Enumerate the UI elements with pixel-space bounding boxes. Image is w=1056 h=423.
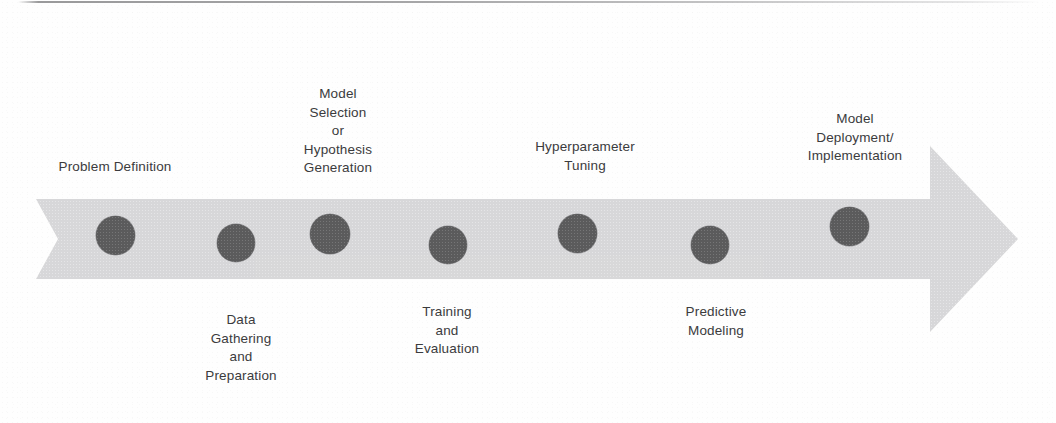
step-label-line: and — [415, 322, 480, 341]
step-label-model-selection-or-hypothesis-generation: ModelSelectionorHypothesisGeneration — [304, 85, 372, 178]
step-label-line: or — [304, 122, 372, 141]
milestone-dot-predictive-modeling — [691, 226, 729, 264]
step-label-line: Model — [808, 110, 902, 129]
step-label-line: Model — [304, 85, 372, 104]
step-label-model-deployment-implementation: ModelDeployment/Implementation — [808, 110, 902, 166]
process-arrow — [0, 0, 1056, 423]
step-label-line: Deployment/ — [808, 129, 902, 148]
milestone-dot-data-gathering-and-preparation — [217, 224, 255, 262]
milestone-dot-model-selection-or-hypothesis-generation — [310, 214, 350, 254]
step-label-problem-definition: Problem Definition — [58, 158, 171, 177]
step-label-line: Training — [415, 303, 480, 322]
step-label-line: Tuning — [535, 157, 635, 176]
arrow-shape-icon — [36, 146, 1018, 332]
diagram-canvas: Problem DefinitionDataGatheringandPrepar… — [0, 0, 1056, 423]
milestone-dot-problem-definition — [96, 216, 135, 255]
step-label-line: and — [205, 348, 276, 367]
step-label-training-and-evaluation: TrainingandEvaluation — [415, 303, 480, 359]
step-label-line: Gathering — [205, 330, 276, 349]
step-label-hyperparameter-tuning: HyperparameterTuning — [535, 138, 635, 175]
step-label-line: Predictive — [686, 303, 747, 322]
step-label-line: Generation — [304, 159, 372, 178]
step-label-line: Implementation — [808, 147, 902, 166]
step-label-line: Evaluation — [415, 340, 480, 359]
step-label-line: Modeling — [686, 322, 747, 341]
step-label-line: Hyperparameter — [535, 138, 635, 157]
step-label-line: Problem Definition — [58, 158, 171, 177]
milestone-dot-training-and-evaluation — [429, 226, 467, 264]
step-label-line: Hypothesis — [304, 141, 372, 160]
step-label-line: Selection — [304, 104, 372, 123]
milestone-dot-hyperparameter-tuning — [558, 214, 597, 253]
step-label-data-gathering-and-preparation: DataGatheringandPreparation — [205, 311, 276, 385]
step-label-predictive-modeling: PredictiveModeling — [686, 303, 747, 340]
step-label-line: Preparation — [205, 367, 276, 386]
milestone-dot-model-deployment-implementation — [830, 207, 869, 246]
step-label-line: Data — [205, 311, 276, 330]
